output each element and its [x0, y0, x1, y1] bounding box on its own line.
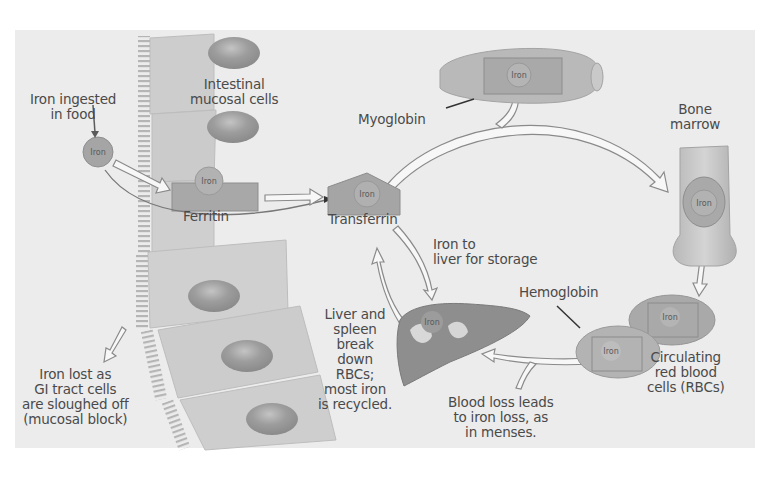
label-myoglobin: Myoglobin	[358, 112, 426, 127]
liver-organ	[397, 303, 530, 386]
label-line: liver for storage	[433, 252, 537, 267]
label-line: Iron lost as	[22, 367, 129, 382]
label-intestinal-cells: Intestinal mucosal cells	[190, 77, 278, 107]
iron-tag-ferritin: Iron	[199, 177, 219, 186]
label-line: Bone	[670, 102, 720, 117]
nucleus	[208, 37, 260, 69]
nucleus	[188, 280, 240, 312]
label-line: are sloughed off	[22, 397, 129, 412]
label-line: cells (RBCs)	[647, 380, 725, 395]
nucleus	[246, 403, 298, 435]
label-line: in menses.	[448, 425, 554, 440]
label-line: down	[318, 352, 392, 367]
myoglobin-pointer	[446, 99, 474, 108]
iron-tag-bone-marrow: Iron	[694, 199, 714, 208]
label-liver-spleen: Liver and spleen break down RBCs; most i…	[318, 307, 392, 412]
label-line: mucosal cells	[190, 92, 278, 107]
label-line: GI tract cells	[22, 382, 129, 397]
label-iron-ingested: Iron ingested in food	[30, 92, 116, 122]
label-line: most iron	[318, 382, 392, 397]
label-blood-loss: Blood loss leads to iron loss, as in men…	[448, 395, 554, 440]
label-line: marrow	[670, 117, 720, 132]
label-iron-lost: Iron lost as GI tract cells are sloughed…	[22, 367, 129, 427]
hemoglobin-pointer	[557, 306, 580, 328]
label-line: Iron ingested	[30, 92, 116, 107]
nucleus	[221, 340, 273, 372]
label-ferritin: Ferritin	[183, 209, 229, 224]
label-circulating-rbcs: Circulating red blood cells (RBCs)	[647, 350, 725, 395]
label-line: Liver and	[318, 307, 392, 322]
label-iron-to-liver: Iron to liver for storage	[433, 237, 537, 267]
label-bone-marrow: Bone marrow	[670, 102, 720, 132]
iron-tag-rbc-1: Iron	[660, 313, 680, 322]
iron-tag-rbc-2: Iron	[601, 347, 621, 356]
iron-tag-food: Iron	[88, 148, 108, 157]
iron-tag-transferrin: Iron	[357, 190, 377, 199]
label-line: red blood	[647, 365, 725, 380]
label-line: RBCs;	[318, 367, 392, 382]
nucleus	[207, 111, 259, 143]
label-line: Circulating	[647, 350, 725, 365]
label-line: Intestinal	[190, 77, 278, 92]
label-line: (mucosal block)	[22, 412, 129, 427]
label-line: break	[318, 337, 392, 352]
label-line: in food	[30, 107, 116, 122]
label-hemoglobin: Hemoglobin	[519, 285, 598, 300]
label-line: is recycled.	[318, 397, 392, 412]
label-line: Blood loss leads	[448, 395, 554, 410]
label-line: to iron loss, as	[448, 410, 554, 425]
label-transferrin: Transferrin	[328, 212, 398, 227]
label-line: spleen	[318, 322, 392, 337]
iron-tag-liver: Iron	[422, 318, 442, 327]
label-line: Iron to	[433, 237, 537, 252]
iron-tag-myoglobin: Iron	[509, 71, 529, 80]
